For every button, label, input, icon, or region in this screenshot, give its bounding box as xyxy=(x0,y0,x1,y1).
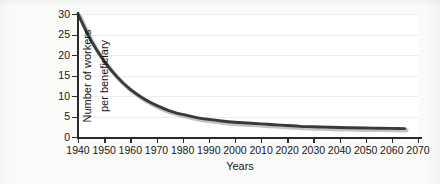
x-axis-tick xyxy=(235,138,236,143)
chart-figure: 051015202530 194019501960197019801990200… xyxy=(0,0,440,184)
y-axis-title-line-2: per beneficiary xyxy=(44,16,164,136)
x-axis-tick xyxy=(183,138,184,143)
x-axis-tick xyxy=(78,138,79,143)
x-axis-line xyxy=(77,137,422,139)
x-axis-tick xyxy=(157,138,158,143)
x-axis-tick xyxy=(130,138,131,143)
x-axis-title: Years xyxy=(150,160,330,172)
x-axis-tick xyxy=(392,138,393,143)
x-axis-tick xyxy=(313,138,314,143)
x-axis-tick xyxy=(209,138,210,143)
x-axis-tick xyxy=(418,138,419,143)
x-axis-tick xyxy=(340,138,341,143)
x-axis-tick xyxy=(104,138,105,143)
y-axis-title: Number of workers per beneficiary xyxy=(14,16,62,136)
y-axis-tick xyxy=(72,137,77,138)
x-axis-tick xyxy=(287,138,288,143)
x-axis-tick-label: 2070 xyxy=(398,145,438,156)
x-axis-tick xyxy=(261,138,262,143)
x-axis-tick xyxy=(366,138,367,143)
